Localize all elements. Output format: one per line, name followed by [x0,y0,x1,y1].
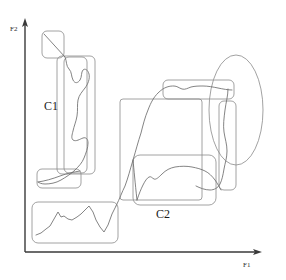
c2-left-box [120,99,202,200]
baseline-box-group [32,202,118,243]
c1-small-box-trace [44,34,65,57]
c2-right-narrow-box [219,101,236,190]
c1-inner-box [64,57,87,173]
c2-lower-signal-trace [137,166,221,200]
cluster-label-c1: C1 [44,99,58,114]
axes-group [22,18,262,255]
diagram-canvas [0,0,286,280]
x-axis-label: F1 [243,261,250,269]
c2-right-branch-trace [196,89,228,190]
feature-space-diagram: F2 F1 C1 C2 [0,0,286,280]
c2-top-box [163,80,234,99]
c2-entry-trace [133,160,137,200]
y-axis-label: F2 [10,25,17,33]
cluster-label-c2: C2 [156,207,170,222]
baseline-box [32,202,118,243]
baseline-signal-trace [36,206,116,235]
